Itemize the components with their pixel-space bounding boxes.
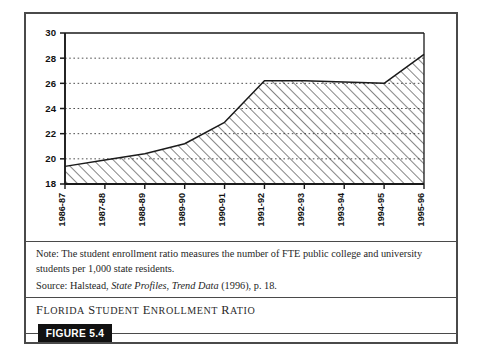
caption-word-body: NROLLMENT bbox=[151, 305, 218, 316]
x-axis-tick-label: 1989-90 bbox=[177, 193, 187, 226]
chart-pane: 18202224262830 1986-871987-881988-891989… bbox=[24, 12, 458, 240]
chart-x-axis-labels: 1986-871987-881988-891989-901990-911991-… bbox=[57, 192, 426, 226]
figure-number-tag: FIGURE 5.4 bbox=[38, 324, 112, 342]
chart-area-fill bbox=[65, 54, 424, 184]
x-axis-tick-label: 1993-94 bbox=[336, 192, 346, 226]
x-axis-tick-label: 1995-96 bbox=[416, 193, 426, 226]
x-axis-tick-label: 1994-95 bbox=[376, 193, 386, 226]
enrollment-ratio-area-chart: 18202224262830 1986-871987-881988-891989… bbox=[24, 12, 458, 240]
x-axis-tick-label: 1990-91 bbox=[217, 193, 227, 226]
source-suffix: (1996), p. 18. bbox=[219, 280, 277, 291]
source-prefix: Source: Halstead, bbox=[36, 280, 111, 291]
caption-word-body: LORIDA bbox=[43, 305, 84, 316]
y-axis-tick-label: 30 bbox=[45, 27, 56, 38]
x-axis-tick-label: 1992-93 bbox=[296, 193, 306, 226]
x-axis-tick-label: 1986-87 bbox=[57, 193, 67, 226]
note-top-divider bbox=[25, 241, 457, 242]
chart-y-axis-labels: 18202224262830 bbox=[45, 27, 56, 189]
figure-caption: FLORIDA STUDENT ENROLLMENT RATIO bbox=[36, 303, 255, 318]
figure-root: 18202224262830 1986-871987-881988-891989… bbox=[0, 0, 482, 355]
figure-caption-text: FLORIDA STUDENT ENROLLMENT RATIO bbox=[36, 304, 255, 316]
x-axis-tick-label: 1988-89 bbox=[137, 193, 147, 226]
caption-word-body: TUDENT bbox=[96, 305, 140, 316]
note-block: Note: The student enrollment ratio measu… bbox=[36, 247, 448, 294]
source-text: Source: Halstead, State Profiles, Trend … bbox=[36, 279, 448, 294]
y-axis-tick-label: 24 bbox=[45, 103, 56, 114]
note-bottom-divider bbox=[25, 297, 457, 298]
y-axis-tick-label: 20 bbox=[45, 153, 56, 164]
source-title-2: Trend Data bbox=[172, 280, 219, 291]
note-text: Note: The student enrollment ratio measu… bbox=[36, 247, 448, 276]
source-title-1: State Profiles bbox=[111, 280, 166, 291]
y-axis-tick-label: 22 bbox=[45, 128, 56, 139]
caption-word-body: ATIO bbox=[230, 305, 255, 316]
y-axis-tick-label: 26 bbox=[45, 78, 56, 89]
caption-word-initial: E bbox=[143, 303, 151, 317]
caption-word-initial: R bbox=[221, 303, 230, 317]
x-axis-tick-label: 1991-92 bbox=[256, 193, 266, 226]
x-axis-tick-label: 1987-88 bbox=[97, 193, 107, 226]
caption-word-initial: S bbox=[88, 303, 95, 317]
y-axis-tick-label: 28 bbox=[45, 53, 56, 64]
y-axis-tick-label: 18 bbox=[45, 178, 56, 189]
